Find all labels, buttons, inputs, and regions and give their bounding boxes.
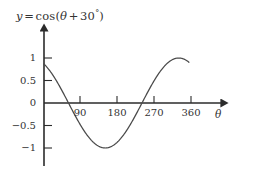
y-axis-label-neg0point5: −0.5 bbox=[0, 121, 36, 131]
y-axis-label-neg1: −1 bbox=[0, 143, 36, 153]
x-axis-label-270: 270 bbox=[144, 108, 163, 118]
plot-canvas bbox=[0, 0, 256, 172]
y-axis-label-0: 0 bbox=[0, 98, 36, 108]
x-tick-marks bbox=[80, 96, 191, 103]
x-axis-label-180: 180 bbox=[107, 108, 126, 118]
y-axis-label-0point5: 0.5 bbox=[0, 76, 36, 86]
y-axis-label-1: 1 bbox=[0, 53, 36, 63]
x-axis-label-360: 360 bbox=[181, 108, 200, 118]
x-axis-name: θ bbox=[215, 109, 221, 120]
trig-graph-figure: y=cos(θ+30°) bbox=[0, 0, 256, 172]
x-axis-label-90: 90 bbox=[74, 108, 87, 118]
